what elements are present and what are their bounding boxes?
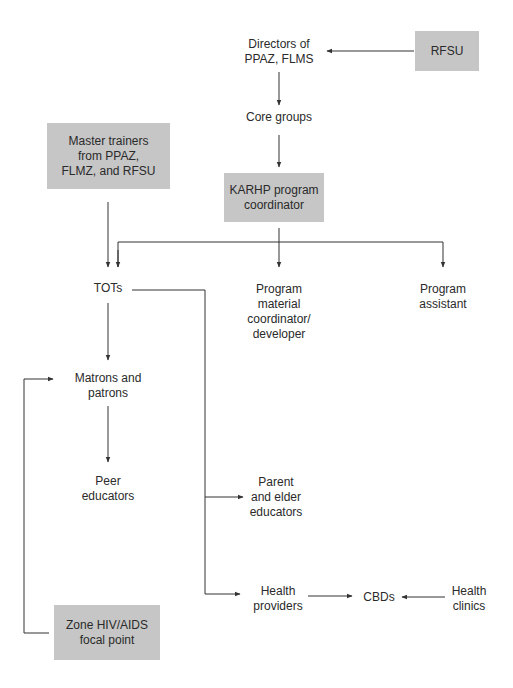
node-master-trainers-label: Master trainers from PPAZ, FLMZ, and RFS… [61,134,155,179]
node-health-providers: Health providers [238,584,318,614]
line-tots-branch [132,290,205,594]
node-zone-focal-point-label: Zone HIV/AIDS focal point [66,618,148,648]
node-peer-educators: Peer educators [58,474,158,504]
node-program-material: Program material coordinator/ developer [229,282,329,342]
node-rfsu: RFSU [415,31,479,71]
node-matrons-patrons: Matrons and patrons [58,371,158,401]
line-zone-to-matrons [24,379,53,633]
node-karhp-coordinator: KARHP program coordinator [224,173,324,222]
node-rfsu-label: RFSU [431,44,464,59]
node-cbds: CBDs [354,590,404,605]
node-master-trainers: Master trainers from PPAZ, FLMZ, and RFS… [47,123,170,189]
line-karhp-branch [118,242,443,267]
node-zone-focal-point: Zone HIV/AIDS focal point [54,605,160,660]
node-health-clinics: Health clinics [443,584,495,614]
org-flow-diagram: RFSU Directors of PPAZ, FLMS Core groups… [0,0,513,688]
node-core-groups: Core groups [224,110,334,125]
node-program-assistant: Program assistant [398,282,488,312]
node-karhp-coordinator-label: KARHP program coordinator [229,183,318,213]
node-directors: Directors of PPAZ, FLMS [224,37,334,67]
node-tots: TOTs [78,281,138,296]
node-parent-elder: Parent and elder educators [231,475,321,520]
